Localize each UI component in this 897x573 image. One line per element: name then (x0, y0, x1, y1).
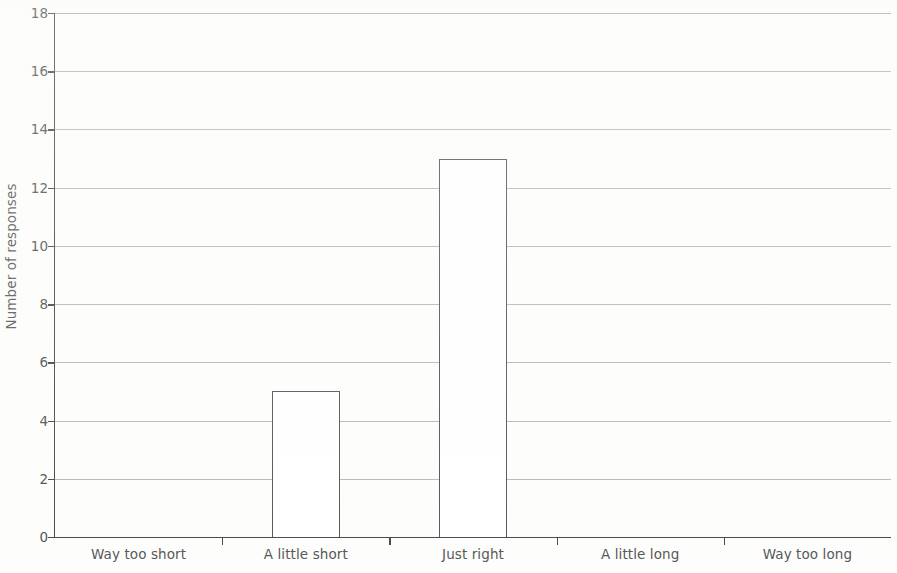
x-category-label-1: A little short (222, 544, 389, 572)
x-category-label-0: Way too short (55, 544, 222, 572)
x-axis-tick-marks (0, 0, 897, 573)
x-category-label-3: A little long (557, 544, 724, 572)
x-category-label-4: Way too long (724, 544, 891, 572)
x-category-label-2: Just right (389, 544, 556, 572)
x-axis-category-labels: Way too shortA little shortJust rightA l… (55, 544, 891, 572)
bar-chart: Number of responses 024681012141618 Way … (0, 0, 897, 573)
